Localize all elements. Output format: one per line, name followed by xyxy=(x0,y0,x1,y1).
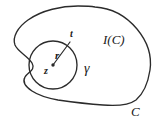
contour-integral-figure: I(C) C γ z r t xyxy=(0,0,167,127)
inner-circle-label: γ xyxy=(84,62,90,76)
center-point-dot xyxy=(51,63,54,66)
center-point-label: z xyxy=(44,66,48,76)
outer-contour-path xyxy=(14,6,150,105)
radius-label: r xyxy=(55,50,59,61)
boundary-point-label: t xyxy=(70,29,73,39)
interior-region-label: I(C) xyxy=(103,33,125,46)
outer-contour-label: C xyxy=(131,105,140,118)
